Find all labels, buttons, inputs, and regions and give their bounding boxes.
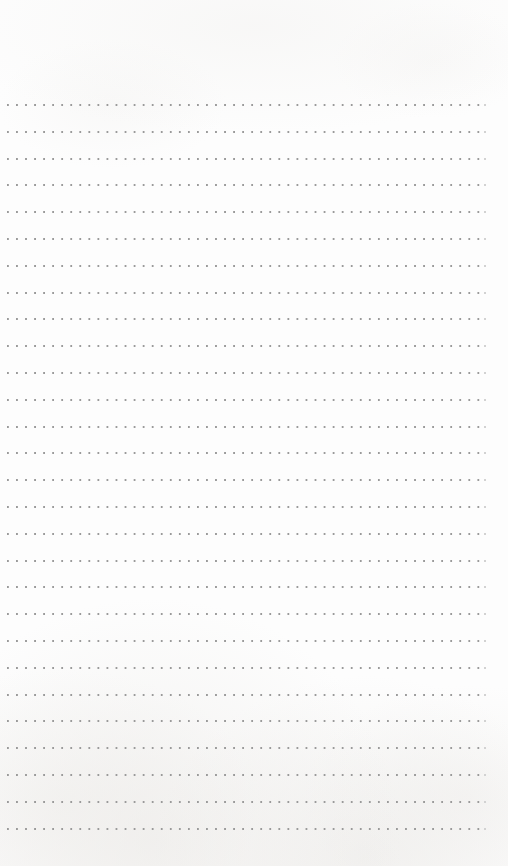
dot-rule-row: [7, 506, 481, 508]
dot-rule-row-tail: [484, 479, 486, 481]
dot-rule-row: [7, 828, 481, 830]
dot-rule-row: [7, 747, 481, 749]
dot-rule-row: [7, 801, 481, 803]
dot-rule-row: [7, 238, 481, 240]
dot-rule-row-tail: [484, 452, 486, 454]
dot-rule-row-tail: [484, 613, 486, 615]
dot-rule-row-tail: [484, 533, 486, 535]
dot-rule-row: [7, 694, 481, 696]
dot-rule-row: [7, 184, 481, 186]
dot-rule-row: [7, 640, 481, 642]
dot-rule-row-tail: [484, 801, 486, 803]
dot-rule-row: [7, 158, 481, 160]
dot-rule-row-tail: [484, 747, 486, 749]
dot-rule-row-tail: [484, 372, 486, 374]
dot-rule-row: [7, 479, 481, 481]
dot-rule-row-tail: [484, 318, 486, 320]
dot-rule-row-tail: [484, 265, 486, 267]
dot-rule-row: [7, 613, 481, 615]
dot-rule-row-tail: [484, 131, 486, 133]
dot-rule-row-tail: [484, 399, 486, 401]
dot-rule-row-tail: [484, 720, 486, 722]
dot-rule-row: [7, 265, 481, 267]
dot-rule-row-tail: [484, 774, 486, 776]
dot-rule-row: [7, 211, 481, 213]
dot-rule-row-tail: [484, 506, 486, 508]
dot-rule-row-tail: [484, 694, 486, 696]
dot-rule-row: [7, 426, 481, 428]
dot-rule-row: [7, 318, 481, 320]
dot-rule-row-tail: [484, 586, 486, 588]
dot-rule-row-tail: [484, 345, 486, 347]
dot-rule-row-tail: [484, 828, 486, 830]
dot-rule-row-tail: [484, 667, 486, 669]
dot-rule-row-tail: [484, 104, 486, 106]
dot-rule-row: [7, 399, 481, 401]
dot-rule-row: [7, 774, 481, 776]
dot-rule-row-tail: [484, 426, 486, 428]
dot-rule-row: [7, 131, 481, 133]
dot-rule-row-tail: [484, 238, 486, 240]
dot-rule-row: [7, 452, 481, 454]
dot-rule-row: [7, 372, 481, 374]
dot-rule-row: [7, 667, 481, 669]
dot-grid: [0, 0, 508, 866]
dot-rule-row: [7, 586, 481, 588]
dot-rule-row-tail: [484, 292, 486, 294]
dot-rule-row-tail: [484, 640, 486, 642]
dot-rule-row: [7, 345, 481, 347]
dot-rule-row: [7, 533, 481, 535]
dot-rule-row: [7, 720, 481, 722]
dot-rule-row: [7, 292, 481, 294]
notebook-page: [0, 0, 508, 866]
dot-rule-row: [7, 560, 481, 562]
dot-rule-row-tail: [484, 158, 486, 160]
dot-rule-row-tail: [484, 184, 486, 186]
dot-rule-row-tail: [484, 560, 486, 562]
dot-rule-row-tail: [484, 211, 486, 213]
dot-rule-row: [7, 104, 481, 106]
